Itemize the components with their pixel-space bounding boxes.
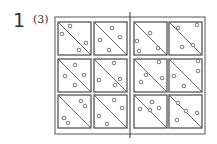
circle-dot bbox=[110, 26, 114, 30]
circle-dot bbox=[150, 100, 154, 104]
circle-dot bbox=[175, 118, 179, 122]
circle-dot bbox=[196, 59, 200, 63]
circle-dot bbox=[195, 111, 199, 115]
circle-dot bbox=[120, 106, 124, 110]
circle-dot bbox=[79, 99, 83, 103]
circle-dot bbox=[118, 35, 122, 39]
circle-dot bbox=[139, 80, 143, 84]
circle-dot bbox=[84, 41, 88, 45]
circle-dot bbox=[160, 76, 164, 80]
cell-diagonal bbox=[94, 59, 127, 92]
circle-dot bbox=[137, 49, 141, 53]
circle-dot bbox=[184, 109, 188, 113]
circle-dot bbox=[176, 101, 180, 105]
circle-dot bbox=[182, 84, 186, 88]
circle-dot bbox=[62, 116, 66, 120]
circle-dot bbox=[97, 114, 101, 118]
cell-diagonal bbox=[58, 95, 91, 128]
circle-dot bbox=[157, 106, 161, 110]
circle-dot bbox=[97, 78, 101, 82]
circle-dot bbox=[105, 122, 109, 126]
circle-dot bbox=[195, 23, 199, 27]
cell-diagonal bbox=[94, 95, 127, 128]
circle-dot bbox=[113, 83, 117, 87]
circle-dot bbox=[148, 108, 152, 112]
circle-dot bbox=[144, 73, 148, 77]
circle-dot bbox=[157, 60, 161, 64]
circle-dot bbox=[156, 46, 160, 50]
circle-dot bbox=[68, 24, 72, 28]
circle-dot bbox=[98, 38, 102, 42]
circle-dot bbox=[135, 39, 139, 43]
circle-dot bbox=[82, 73, 86, 77]
cell-diagonal bbox=[134, 59, 167, 92]
circle-dot bbox=[107, 48, 111, 52]
circle-dot bbox=[77, 48, 81, 52]
circle-dot bbox=[60, 32, 64, 36]
circle-dot bbox=[118, 77, 122, 81]
circle-dot bbox=[196, 69, 200, 73]
circle-dot bbox=[138, 107, 142, 111]
circle-dot bbox=[191, 43, 195, 47]
circle-dot bbox=[83, 104, 87, 108]
circle-dot bbox=[172, 74, 176, 78]
dot-grid-diagram bbox=[0, 0, 217, 144]
circle-dot bbox=[180, 45, 184, 49]
circle-dot bbox=[66, 121, 70, 125]
circle-dot bbox=[176, 26, 180, 30]
circle-dot bbox=[63, 74, 67, 78]
cell-diagonal bbox=[58, 22, 91, 55]
circle-dot bbox=[112, 61, 116, 65]
circle-dot bbox=[148, 31, 152, 35]
circle-dot bbox=[73, 83, 77, 87]
circle-dot bbox=[112, 98, 116, 102]
circle-dot bbox=[73, 63, 77, 67]
